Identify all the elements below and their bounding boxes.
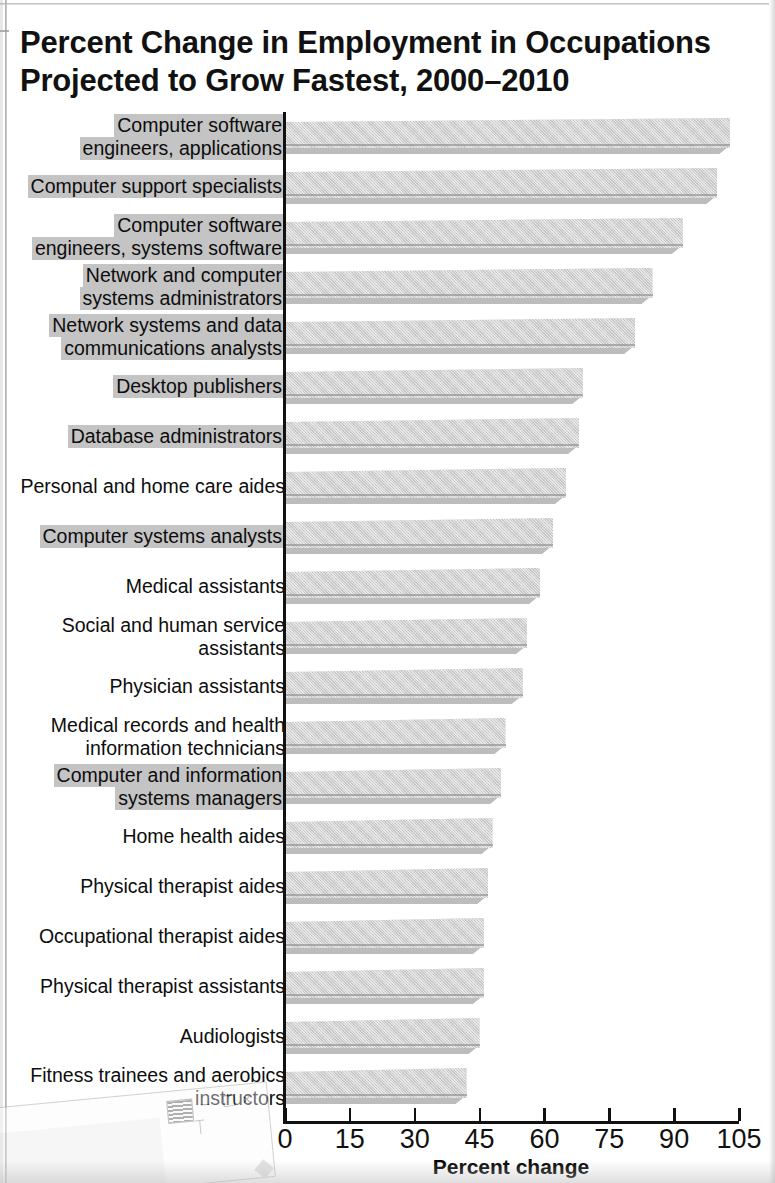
x-axis-tick (349, 1108, 352, 1121)
chart-bar-row: Network systems and datacommunications a… (0, 314, 775, 364)
chart-bar-row: Computer and informationsystems managers (0, 764, 775, 814)
chart-bar (285, 618, 527, 658)
chart-bar-edge-line (285, 394, 583, 396)
window-thumbnail-icon (166, 1099, 194, 1124)
bar-category-label: Network and computersystems administrato… (0, 264, 285, 310)
bar-category-label: Occupational therapist aides (0, 925, 285, 948)
page-shadow-artifact (0, 1160, 775, 1183)
chart-bar (285, 968, 484, 1008)
chart-bar-row: Physical therapist aides (0, 864, 775, 914)
chart-bar-row: Occupational therapist aides (0, 914, 775, 964)
bar-category-label: Database administrators (0, 425, 285, 448)
chart-bar-row: Network and computersystems administrato… (0, 264, 775, 314)
chart-bar-row: Social and human serviceassistants (0, 614, 775, 664)
chart-bar-edge-line (285, 544, 553, 546)
window-minimize-icon: – (200, 1095, 210, 1111)
bar-category-label: Desktop publishers (0, 375, 285, 398)
x-axis-tick (479, 1108, 482, 1121)
bar-category-label: Personal and home care aides (0, 475, 285, 498)
chart-bar-edge-line (285, 694, 523, 696)
chart-bar-row: Database administrators (0, 414, 775, 464)
x-axis-tick-label: 105 (699, 1124, 775, 1154)
chart-bar-row: Physician assistants (0, 664, 775, 714)
x-axis-tick (414, 1108, 417, 1121)
chart-bar (285, 418, 579, 458)
bar-category-label: Physician assistants (0, 675, 285, 698)
window-maximize-icon: ❐ (222, 1092, 236, 1108)
chart-bar-edge-line (285, 794, 501, 796)
chart-bar (285, 768, 501, 808)
chart-bar (285, 818, 493, 858)
chart-bar-edge-line (285, 1044, 480, 1046)
bar-category-label: Computer support specialists (0, 175, 285, 198)
chart-bar-row: Desktop publishers (0, 364, 775, 414)
chart-bar (285, 218, 683, 258)
chart-bar-row: Personal and home care aides (0, 464, 775, 514)
bar-category-label: Computer softwareengineers, applications (0, 114, 285, 160)
chart-bar (285, 168, 717, 208)
chart-bar (285, 918, 484, 958)
chart-bar-edge-line (285, 844, 493, 846)
chart-bar-edge-line (285, 494, 566, 496)
y-axis-line (283, 112, 286, 1124)
chart-bar-edge-line (285, 644, 527, 646)
chart-bar (285, 118, 730, 158)
chart-bar (285, 668, 523, 708)
chart-title: Percent Change in Employment in Occupati… (20, 24, 760, 100)
bar-category-label: Physical therapist aides (0, 875, 285, 898)
x-axis-tick (738, 1108, 741, 1121)
chart-bar-row: Computer softwareengineers, systems soft… (0, 214, 775, 264)
chart-bar-row: Medical assistants (0, 564, 775, 614)
chart-bar-edge-line (285, 944, 484, 946)
chart-bar-row: Home health aides (0, 814, 775, 864)
chart-bar (285, 518, 553, 558)
x-axis-tick (543, 1108, 546, 1121)
page-edge-artifact-nick (0, 30, 9, 32)
chart-bar-edge-line (285, 594, 540, 596)
bar-category-label: Physical therapist assistants (0, 975, 285, 998)
chart-bar (285, 268, 653, 308)
bar-category-label: Computer and informationsystems managers (0, 764, 285, 810)
chart-bar-edge-line (285, 744, 506, 746)
chart-bar-row: Computer support specialists (0, 164, 775, 214)
bar-category-label: Network systems and datacommunications a… (0, 314, 285, 360)
chart-bar (285, 368, 583, 408)
x-axis-tick (608, 1108, 611, 1121)
chart-bar (285, 1068, 467, 1108)
bar-category-label: Medical records and healthinformation te… (0, 714, 285, 760)
chart-bar-row: Computer systems analysts (0, 514, 775, 564)
bar-category-label: Home health aides (0, 825, 285, 848)
x-axis-tick (673, 1108, 676, 1121)
x-axis-tick (284, 1108, 287, 1121)
chart-bar-row: Computer softwareengineers, applications (0, 114, 775, 164)
chart-bar-edge-line (285, 294, 653, 296)
chart-bar-edge-line (285, 1094, 467, 1096)
chart-bar (285, 718, 506, 758)
chart-bar-edge-line (285, 244, 683, 246)
chart-bar-edge-line (285, 144, 730, 146)
chart-bar (285, 868, 488, 908)
window-close-icon: × (242, 1091, 252, 1107)
chart-bar (285, 568, 540, 608)
bar-category-label: Social and human serviceassistants (0, 614, 285, 660)
chart-bar-edge-line (285, 344, 635, 346)
chart-bar (285, 1018, 480, 1058)
chart-bar-edge-line (285, 994, 484, 996)
chart-bar-edge-line (285, 444, 579, 446)
chart-bar (285, 318, 635, 358)
chart-plot-area: Computer softwareengineers, applications… (0, 112, 775, 1122)
bar-category-label: Computer systems analysts (0, 525, 285, 548)
page-edge-artifact-top (0, 3, 775, 5)
bar-category-label: Computer softwareengineers, systems soft… (0, 214, 285, 260)
chart-bar (285, 468, 566, 508)
chart-bar-edge-line (285, 894, 488, 896)
chart-bar-row: Audiologists (0, 1014, 775, 1064)
bar-category-label: Medical assistants (0, 575, 285, 598)
chart-bar-row: Medical records and healthinformation te… (0, 714, 775, 764)
chart-bar-edge-line (285, 194, 717, 196)
bar-category-label: Audiologists (0, 1025, 285, 1048)
chart-bar-row: Physical therapist assistants (0, 964, 775, 1014)
